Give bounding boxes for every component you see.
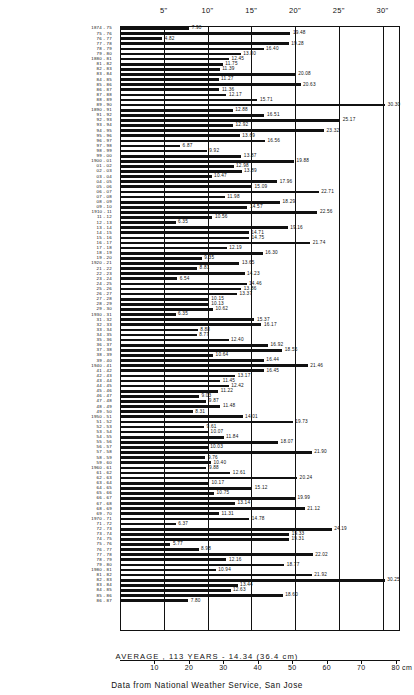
- bar-value-label: 22.71: [321, 189, 334, 194]
- bar-value-label: 18.29: [283, 199, 296, 204]
- bar: [120, 231, 249, 234]
- bar-value-label: 19.16: [290, 225, 303, 230]
- bar-value-label: 12.19: [229, 245, 242, 250]
- bar: [120, 134, 240, 137]
- bar-value-label: 10.62: [215, 306, 228, 311]
- bar-value-label: 19.73: [295, 419, 308, 424]
- bar-value-label: 15.09: [255, 184, 268, 189]
- bar-value-label: 14.75: [252, 235, 265, 240]
- bar: [120, 451, 312, 454]
- average-annotation: AVERAGE , 113 YEARS - 14.34 (36.4 cm): [0, 652, 414, 661]
- bar-value-label: 19.28: [291, 41, 304, 46]
- bottom-axis-tick-label: 40: [254, 664, 262, 671]
- bar: [120, 553, 313, 556]
- bar-value-label: 9.92: [209, 148, 219, 153]
- bar: [120, 538, 289, 541]
- bar-value-label: 10.07: [211, 429, 224, 434]
- bar-value-label: 10.94: [218, 567, 231, 572]
- bar: [120, 124, 233, 127]
- bar-value-label: 13.17: [238, 373, 251, 378]
- bar: [120, 221, 176, 224]
- bar: [120, 83, 301, 86]
- vertical-gridline: [295, 26, 296, 631]
- bar-value-label: 20.08: [298, 71, 311, 76]
- bar-value-label: 6.35: [178, 311, 188, 316]
- bar: [120, 329, 198, 332]
- vertical-gridline: [251, 26, 252, 631]
- bar-value-label: 18.77: [287, 562, 300, 567]
- vertical-gridline: [339, 26, 340, 631]
- bar-value-label: 24.19: [334, 526, 347, 531]
- bar-value-label: 16.44: [266, 357, 279, 362]
- bar: [120, 257, 202, 260]
- bar-value-label: 22.56: [320, 209, 333, 214]
- bar: [120, 155, 241, 158]
- bar: [120, 426, 204, 429]
- bar-value-label: 8.98: [201, 546, 211, 551]
- bar-value-label: 13.87: [244, 153, 257, 158]
- bar: [120, 242, 310, 245]
- bar: [120, 415, 243, 418]
- bar-value-label: 17.96: [280, 179, 293, 184]
- bar: [120, 395, 199, 398]
- bar: [120, 170, 242, 173]
- bar: [120, 318, 254, 321]
- bottom-axis-tick-label: 60: [322, 664, 330, 671]
- source-annotation: Data from National Weather Service, San …: [0, 681, 414, 690]
- bar-value-label: 21.46: [310, 363, 323, 368]
- bar: [120, 88, 219, 91]
- bar: [120, 421, 293, 424]
- bar-value-label: 16.56: [267, 138, 280, 143]
- bar-value-label: 19.88: [296, 158, 309, 163]
- bottom-axis-tick-label: 50: [288, 664, 296, 671]
- bar-value-label: 8.31: [195, 409, 205, 414]
- bar-value-label: 5.77: [173, 541, 183, 546]
- bar-value-label: 13.69: [242, 133, 255, 138]
- top-axis-tick-label: 10": [202, 6, 214, 15]
- bar-value-label: 11.84: [226, 434, 238, 439]
- bar-value-label: 11.98: [227, 194, 239, 199]
- bar: [120, 461, 211, 464]
- bar-value-label: 12.42: [231, 383, 244, 388]
- bar: [120, 283, 247, 286]
- bar-value-label: 30.30: [388, 102, 401, 107]
- bar-value-label: 6.87: [183, 143, 193, 148]
- bar: [120, 599, 188, 602]
- bar: [120, 390, 218, 393]
- bar-value-label: 16.30: [265, 250, 278, 255]
- bar: [120, 564, 284, 567]
- bar: [120, 323, 261, 326]
- bar: [120, 226, 288, 229]
- bar: [120, 175, 212, 178]
- bar-value-label: 14.23: [247, 271, 260, 276]
- bottom-axis-cm: 1020304050607080 cm: [0, 631, 414, 653]
- bar-value-label: 12.17: [229, 92, 242, 97]
- bar-value-label: 16.40: [266, 46, 279, 51]
- top-axis-inches: 5"10"15"20"25"30": [0, 6, 414, 22]
- bar-value-label: 16.92: [271, 342, 284, 347]
- bar-value-label: 14.78: [252, 516, 265, 521]
- bar-value-label: 9.88: [209, 465, 219, 470]
- bar: [120, 288, 241, 291]
- bar: [120, 344, 268, 347]
- bar: [120, 129, 324, 132]
- bar: [120, 27, 189, 30]
- top-axis-tick-label: 30": [377, 6, 389, 15]
- bar: [120, 206, 247, 209]
- bar: [120, 523, 176, 526]
- bottom-axis-tick-label: 70: [357, 664, 365, 671]
- bar-value-label: 22.02: [315, 552, 328, 557]
- bar-value-label: 10.03: [210, 444, 223, 449]
- bar-value-label: 7.80: [191, 598, 201, 603]
- bar-value-label: 13.80: [243, 51, 256, 56]
- bar-value-label: 16.51: [267, 112, 280, 117]
- bar-value-label: 4.82: [165, 36, 175, 41]
- bar: [120, 380, 220, 383]
- bar-value-label: 9.35: [204, 255, 214, 260]
- bar-value-label: 10.47: [214, 173, 227, 178]
- bar-value-label: 12.88: [235, 107, 248, 112]
- bar-value-label: 20.63: [303, 82, 316, 87]
- bar-value-label: 21.90: [314, 449, 327, 454]
- bar: [120, 94, 226, 97]
- bar: [120, 364, 308, 367]
